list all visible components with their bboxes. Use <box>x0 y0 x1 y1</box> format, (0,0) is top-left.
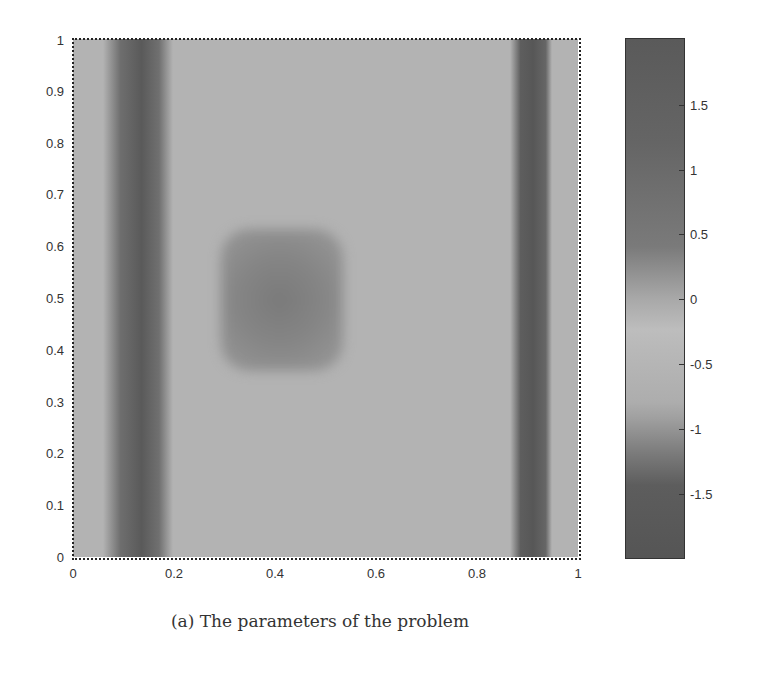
colorbar-tick-mark <box>679 299 685 300</box>
colorbar <box>625 38 685 559</box>
y-tick: 0.9 <box>20 84 64 99</box>
y-tick: 0.2 <box>20 446 64 461</box>
colorbar-tick: -0.5 <box>690 357 712 372</box>
colorbar-tick: -1.5 <box>690 487 712 502</box>
x-tick: 0.2 <box>165 566 183 581</box>
y-tick: 0.4 <box>20 343 64 358</box>
colorbar-tick-mark <box>679 234 685 235</box>
y-tick: 0.1 <box>20 498 64 513</box>
heatmap-plot-area <box>73 39 578 557</box>
colorbar-tick: 0 <box>690 292 697 307</box>
x-tick: 0 <box>69 566 76 581</box>
left-stripe <box>103 39 173 557</box>
right-stripe <box>510 39 552 557</box>
colorbar-tick: -1 <box>690 422 702 437</box>
colorbar-tick-mark <box>679 364 685 365</box>
y-tick: 0 <box>20 550 64 565</box>
colorbar-tick-mark <box>679 429 685 430</box>
x-tick: 0.4 <box>266 566 284 581</box>
y-tick: 0.8 <box>20 136 64 151</box>
x-tick: 0.6 <box>367 566 385 581</box>
x-tick: 0.8 <box>468 566 486 581</box>
x-tick: 1 <box>574 566 581 581</box>
colorbar-tick: 1.5 <box>690 98 708 113</box>
y-tick: 0.5 <box>20 291 64 306</box>
y-tick: 0.3 <box>20 395 64 410</box>
colorbar-tick-mark <box>679 170 685 171</box>
y-tick: 0.7 <box>20 187 64 202</box>
y-tick: 0.6 <box>20 239 64 254</box>
colorbar-tick-mark <box>679 105 685 106</box>
y-tick: 1 <box>20 33 64 48</box>
colorbar-tick: 1 <box>690 163 697 178</box>
figure-caption: (a) The parameters of the problem <box>0 611 640 631</box>
colorbar-tick-mark <box>679 494 685 495</box>
square-region <box>221 229 343 371</box>
colorbar-tick: 0.5 <box>690 227 708 242</box>
